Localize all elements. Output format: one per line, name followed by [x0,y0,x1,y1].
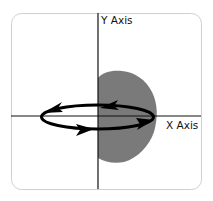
y-axis-label: Y Axis [100,14,133,26]
axis-rotation-diagram: Y Axis X Axis [0,0,213,201]
x-axis-label: X Axis [166,119,198,131]
